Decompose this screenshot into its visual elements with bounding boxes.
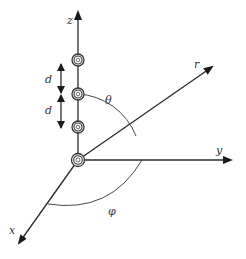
spacing-label-2: d [45, 104, 52, 117]
x-axis-label: x [9, 224, 16, 237]
r-vector [78, 67, 212, 160]
r-vector-label: r [194, 58, 200, 71]
dipole-upper-middle [72, 88, 84, 100]
x-axis [19, 160, 78, 243]
dipole-top [72, 54, 84, 66]
spacing-label-1: d [45, 73, 52, 86]
dipole-origin [72, 154, 85, 167]
theta-label: θ [105, 94, 112, 107]
z-axis-label: z [66, 14, 73, 27]
dipole-lower-middle [72, 121, 84, 133]
coordinate-diagram: z y x r θ φ d d [0, 0, 246, 259]
y-axis-label: y [215, 144, 223, 157]
phi-label: φ [108, 205, 116, 218]
